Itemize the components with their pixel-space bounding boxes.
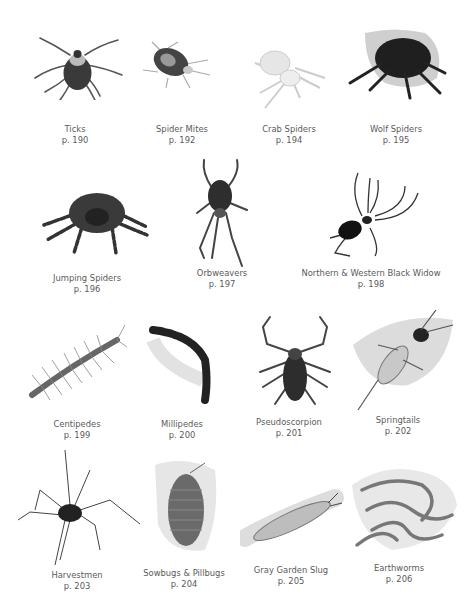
label-orbweavers: Orbweavers (197, 268, 247, 279)
black-widow-illustration (320, 168, 425, 258)
label-sowbugs: Sowbugs & Pillbugs (143, 568, 225, 579)
caption-springtails: Springtails p. 202 (376, 415, 420, 437)
springtail-illustration (348, 310, 458, 415)
spider-mite-illustration (138, 40, 218, 90)
page-pseudoscorpion: p. 201 (256, 428, 322, 439)
page-spider-mites: p. 192 (156, 135, 208, 146)
caption-spider-mites: Spider Mites p. 192 (156, 124, 208, 146)
caption-centipedes: Centipedes p. 199 (53, 419, 100, 441)
page-orbweavers: p. 197 (197, 279, 247, 290)
label-pseudoscorpion: Pseudoscorpion (256, 417, 322, 428)
page-jumping-spiders: p. 196 (53, 284, 121, 295)
centipede-illustration (22, 315, 127, 405)
label-springtails: Springtails (376, 415, 420, 426)
label-crab-spiders: Crab Spiders (262, 124, 316, 135)
earthworm-illustration (352, 465, 457, 555)
orbweaver-illustration (192, 158, 252, 268)
page-slug: p. 205 (254, 576, 328, 587)
caption-orbweavers: Orbweavers p. 197 (197, 268, 247, 290)
label-slug: Gray Garden Slug (254, 565, 328, 576)
jumping-spider-illustration (42, 185, 152, 255)
label-millipedes: Millipedes (161, 419, 203, 430)
caption-earthworms: Earthworms p. 206 (374, 563, 424, 585)
caption-wolf-spiders: Wolf Spiders p. 195 (370, 124, 422, 146)
slug-illustration (240, 488, 345, 548)
label-wolf-spiders: Wolf Spiders (370, 124, 422, 135)
label-centipedes: Centipedes (53, 419, 100, 430)
label-jumping-spiders: Jumping Spiders (53, 273, 121, 284)
page-crab-spiders: p. 194 (262, 135, 316, 146)
caption-ticks: Ticks p. 190 (62, 124, 89, 146)
label-earthworms: Earthworms (374, 563, 424, 574)
caption-black-widow: Northern & Western Black Widow p. 198 (301, 268, 440, 290)
label-spider-mites: Spider Mites (156, 124, 208, 135)
pseudoscorpion-illustration (255, 312, 335, 412)
harvestman-illustration (15, 450, 140, 565)
page-wolf-spiders: p. 195 (370, 135, 422, 146)
caption-pseudoscorpion: Pseudoscorpion p. 201 (256, 417, 322, 439)
caption-jumping-spiders: Jumping Spiders p. 196 (53, 273, 121, 295)
millipede-illustration (143, 325, 233, 405)
page-harvestmen: p. 203 (51, 581, 102, 592)
label-ticks: Ticks (62, 124, 89, 135)
label-black-widow: Northern & Western Black Widow (301, 268, 440, 279)
page-ticks: p. 190 (62, 135, 89, 146)
tick-illustration (30, 30, 125, 100)
caption-crab-spiders: Crab Spiders p. 194 (262, 124, 316, 146)
page-earthworms: p. 206 (374, 574, 424, 585)
sowbug-illustration (150, 455, 220, 555)
page-centipedes: p. 199 (53, 430, 100, 441)
page-sowbugs: p. 204 (143, 579, 225, 590)
label-harvestmen: Harvestmen (51, 570, 102, 581)
crab-spider-illustration (245, 38, 330, 113)
caption-sowbugs: Sowbugs & Pillbugs p. 204 (143, 568, 225, 590)
wolf-spider-illustration (345, 28, 450, 103)
caption-millipedes: Millipedes p. 200 (161, 419, 203, 441)
page-springtails: p. 202 (376, 426, 420, 437)
caption-harvestmen: Harvestmen p. 203 (51, 570, 102, 592)
page-black-widow: p. 198 (301, 279, 440, 290)
page-millipedes: p. 200 (161, 430, 203, 441)
caption-slug: Gray Garden Slug p. 205 (254, 565, 328, 587)
